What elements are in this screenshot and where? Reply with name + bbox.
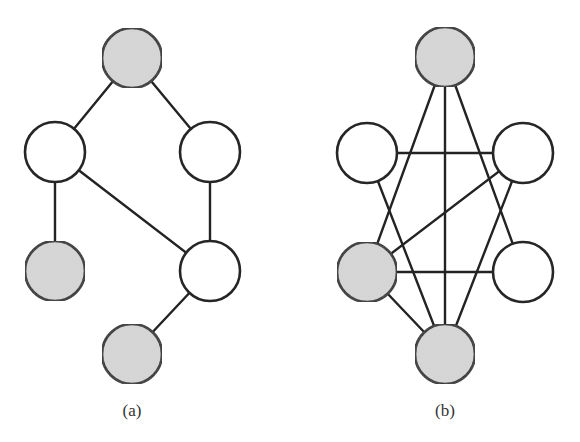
graph-a (25, 28, 240, 384)
node-top-shaded (415, 27, 475, 87)
node-ml-unshaded (337, 123, 397, 183)
graph-b-edges (367, 57, 523, 354)
node-bl-shaded (25, 241, 85, 301)
graph-a-caption: (a) (123, 401, 142, 421)
graph-b (337, 27, 553, 384)
node-mr-unshaded (180, 122, 240, 182)
graph-a-nodes (25, 28, 240, 384)
diagram-canvas (0, 0, 580, 442)
node-bl-shaded (337, 242, 397, 302)
node-br-unshaded (180, 241, 240, 301)
graph-a-edges (55, 58, 210, 354)
node-mr-unshaded (493, 123, 553, 183)
graph-b-caption: (b) (435, 401, 455, 421)
node-bot-shaded (415, 324, 475, 384)
node-bot-shaded (102, 324, 162, 384)
node-top-shaded (102, 28, 162, 88)
node-ml-unshaded (25, 122, 85, 182)
node-br-unshaded (493, 242, 553, 302)
